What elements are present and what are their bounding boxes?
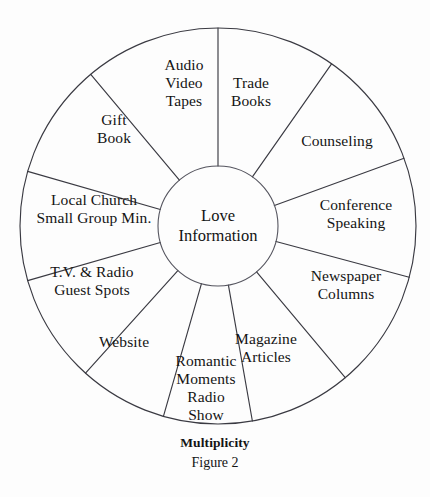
figure-caption: Multiplicity Figure 2 <box>0 435 430 471</box>
sector-label-newspaper-columns[interactable]: Newspaper Columns <box>311 267 382 303</box>
multiplicity-wheel-diagram: Love Information Trade Books Counseling … <box>0 0 430 497</box>
sector-label-magazine-articles[interactable]: Magazine Articles <box>235 330 297 366</box>
sector-label-romantic-moments-radio-show[interactable]: Romantic Moments Radio Show <box>175 352 236 425</box>
caption-title: Multiplicity <box>0 435 430 451</box>
hub-label: Love Information <box>179 206 258 246</box>
sector-label-trade-books[interactable]: Trade Books <box>231 74 271 110</box>
sector-label-gift-book[interactable]: Gift Book <box>97 111 131 147</box>
sector-label-tv-radio-guest-spots[interactable]: T.V. & Radio Guest Spots <box>50 263 133 299</box>
sector-label-audio-video-tapes[interactable]: Audio Video Tapes <box>164 56 203 110</box>
sector-label-website[interactable]: Website <box>99 333 149 351</box>
sector-label-counseling[interactable]: Counseling <box>301 132 373 150</box>
sector-label-local-church-small-group-min[interactable]: Local Church Small Group Min. <box>37 191 152 227</box>
sector-label-conference-speaking[interactable]: Conference Speaking <box>320 196 392 232</box>
caption-number: Figure 2 <box>0 455 430 471</box>
